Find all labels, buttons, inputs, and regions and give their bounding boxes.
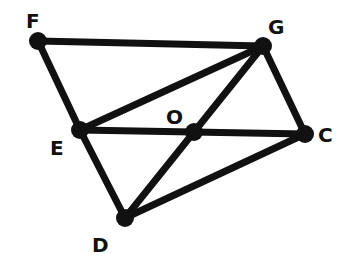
point-G: [254, 37, 272, 55]
point-O: [185, 123, 203, 141]
point-F: [29, 32, 47, 50]
point-C: [296, 125, 314, 143]
label-F: F: [26, 9, 40, 33]
point-D: [116, 209, 134, 227]
label-O: O: [166, 105, 183, 129]
segment-FE: [38, 41, 80, 130]
geometry-diagram: F G E O C D: [0, 0, 355, 265]
label-G: G: [268, 15, 284, 39]
label-E: E: [50, 136, 64, 160]
segment-GC: [263, 46, 305, 134]
segment-FG: [38, 41, 263, 46]
label-D: D: [92, 233, 109, 257]
segment-DC: [125, 134, 305, 218]
point-E: [71, 121, 89, 139]
label-C: C: [318, 123, 333, 147]
segment-ED: [80, 130, 125, 218]
